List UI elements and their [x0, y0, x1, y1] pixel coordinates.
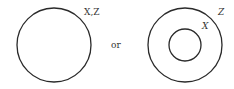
outer-circle-label: Z [218, 8, 224, 17]
left-circle [17, 8, 91, 82]
right-outer-circle [148, 8, 222, 82]
inner-circle-label: X [202, 22, 208, 31]
or-text: or [111, 41, 121, 50]
right-inner-circle [169, 29, 201, 61]
left-circle-label: X,Z [84, 8, 100, 17]
